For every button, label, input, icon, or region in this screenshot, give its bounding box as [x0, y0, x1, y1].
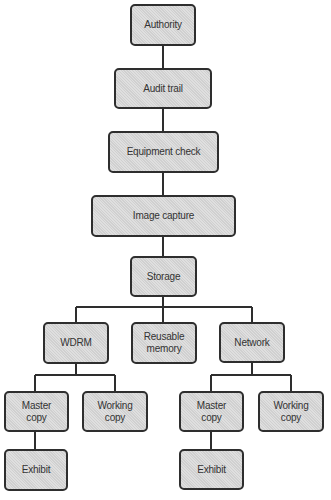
- node-network-working-copy: Working copy: [258, 391, 324, 432]
- node-wdrm: WDRM: [43, 322, 109, 364]
- node-storage: Storage: [130, 256, 197, 297]
- node-network: Network: [219, 322, 285, 363]
- node-label: Equipment check: [127, 146, 201, 158]
- node-label: Storage: [147, 271, 181, 283]
- node-label: Reusable memory: [144, 331, 185, 355]
- node-wdrm-master-copy: Master copy: [4, 391, 69, 432]
- flowchart-canvas: Authority Audit trail Equipment check Im…: [0, 0, 331, 500]
- node-wdrm-exhibit: Exhibit: [4, 449, 68, 491]
- node-network-master-copy: Master copy: [179, 391, 244, 432]
- node-label: Network: [234, 337, 269, 349]
- node-label: Audit trail: [143, 83, 183, 95]
- node-label: Master copy: [22, 400, 51, 424]
- node-label: Exhibit: [197, 464, 226, 476]
- node-audit-trail: Audit trail: [114, 68, 212, 109]
- node-label: Image capture: [133, 210, 194, 222]
- node-label: Working copy: [273, 400, 308, 424]
- node-label: WDRM: [60, 337, 91, 349]
- node-network-exhibit: Exhibit: [179, 449, 244, 490]
- node-label: Working copy: [97, 400, 132, 424]
- node-equipment-check: Equipment check: [108, 131, 219, 173]
- node-label: Exhibit: [22, 464, 51, 476]
- node-label: Authority: [144, 19, 182, 31]
- node-label: Master copy: [197, 400, 226, 424]
- node-authority: Authority: [130, 4, 196, 46]
- node-reusable-memory: Reusable memory: [131, 322, 197, 364]
- node-wdrm-working-copy: Working copy: [82, 391, 148, 432]
- node-image-capture: Image capture: [91, 195, 236, 237]
